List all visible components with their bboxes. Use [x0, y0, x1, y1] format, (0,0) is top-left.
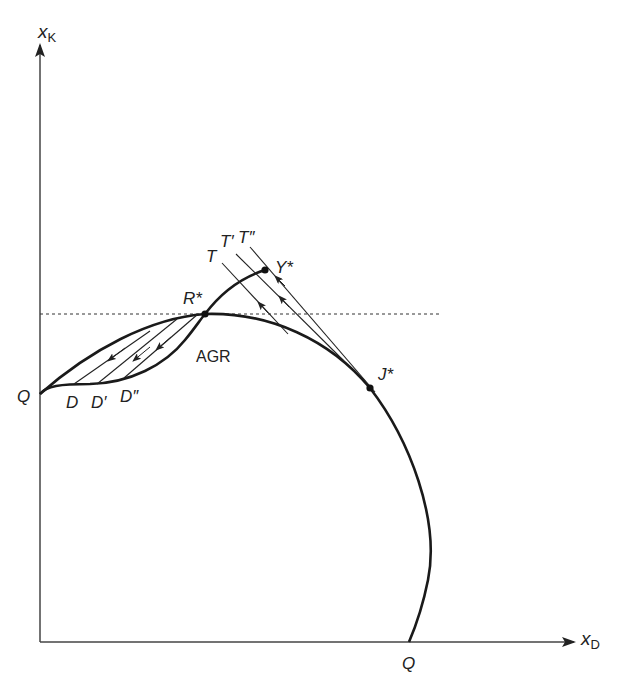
label-R-star: R*: [183, 289, 203, 308]
label-D-double-prime: D″: [120, 387, 139, 406]
label-D-prime: D′: [91, 393, 107, 412]
x-axis-label: xD: [580, 628, 600, 652]
label-D: D: [66, 393, 78, 412]
axes: [40, 45, 574, 642]
label-T-double-prime: T″: [238, 228, 255, 247]
y-axis-label: xK: [37, 21, 57, 45]
point-R-star: [201, 310, 208, 317]
curve-QQ: [40, 314, 431, 642]
label-Q-bottom: Q: [402, 654, 415, 673]
label-T-prime: T′: [220, 232, 234, 251]
D-lines: [74, 314, 198, 384]
label-T: T: [206, 247, 218, 266]
label-AGR: AGR: [196, 348, 231, 365]
label-Y-star: Y*: [275, 258, 294, 277]
diagram-canvas: xK xD Q Q R* Y* J* AGR T T′ T″ D D′ D″: [0, 0, 619, 684]
curve-lower-lens: [40, 270, 265, 394]
point-Y-star: [261, 266, 268, 273]
point-J-star: [366, 384, 373, 391]
label-J-star: J*: [377, 365, 395, 384]
label-Q-left: Q: [17, 387, 30, 406]
T-double-prime-line: [250, 247, 375, 392]
